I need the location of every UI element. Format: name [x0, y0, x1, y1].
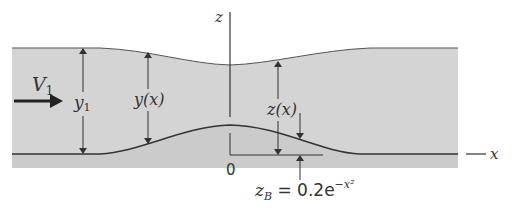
origin-label: 0 — [226, 161, 236, 179]
local-depth-label: y(x) — [133, 90, 165, 109]
bump-equation: zB = 0.2e−x² — [254, 178, 354, 203]
surface-elevation-label: z(x) — [266, 100, 297, 119]
z-axis-label: z — [214, 8, 223, 26]
channel-flow-diagram: V1 y1 y(x) z(x) z 0 x zB = 0.2e−x² — [0, 0, 515, 212]
x-axis-label: x — [490, 145, 499, 163]
